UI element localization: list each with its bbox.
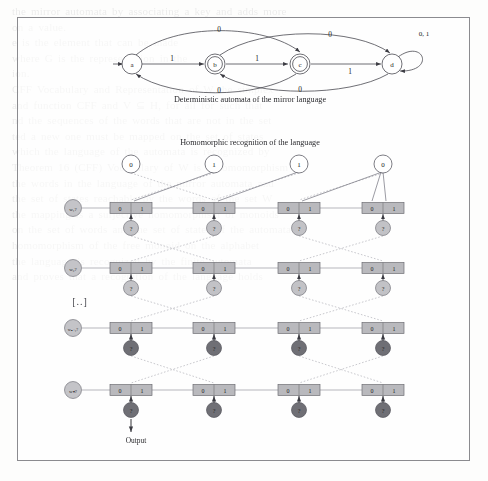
- svg-text:?: ?: [130, 286, 133, 292]
- row-label-0-text: w₁?: [69, 207, 77, 212]
- input-token-0-label: 0: [129, 161, 133, 169]
- lattice-cells: 01 ? 01 ? 01 ? 01 ? 01 ? 01 ? 01 ? 01 ? …: [110, 203, 404, 433]
- edge-label-a-c: 0: [217, 25, 221, 34]
- svg-text:0: 0: [119, 206, 122, 212]
- svg-text:?: ?: [213, 408, 216, 414]
- svg-text:1: 1: [141, 326, 144, 332]
- svg-text:0: 0: [287, 206, 290, 212]
- ellipsis-marker: [..]: [60, 296, 100, 307]
- state-c-label: c: [298, 61, 301, 69]
- svg-text:?: ?: [298, 226, 301, 232]
- svg-text:?: ?: [382, 408, 385, 414]
- state-b-label: b: [213, 61, 217, 69]
- figure-svg: a b c d 1 1 1 0 0 0 0 0, 1: [0, 0, 488, 481]
- cell-r3c2: 01: [278, 385, 320, 396]
- svg-text:1: 1: [309, 206, 312, 212]
- link-in2-c1-solid: [218, 172, 298, 201]
- svg-text:?: ?: [382, 286, 385, 292]
- svg-text:0: 0: [119, 266, 122, 272]
- edge-d-b-below: [220, 74, 388, 91]
- link-r0n1-r1c0: [131, 236, 214, 261]
- svg-text:0: 0: [371, 388, 374, 394]
- link-r1n0-r2c1: [131, 296, 214, 321]
- cell-r0c0: 01: [110, 203, 152, 214]
- svg-text:?: ?: [130, 226, 133, 232]
- link-r1n3-r2c2: [299, 296, 383, 321]
- edge-label-c-a: 0: [217, 86, 221, 95]
- svg-text:1: 1: [393, 388, 396, 394]
- cell-r1c1: 01: [193, 263, 235, 274]
- row-label-2-text: wₙ₋₁?: [68, 327, 78, 332]
- state-d-label: d: [390, 61, 394, 69]
- svg-text:1: 1: [309, 388, 312, 394]
- svg-text:?: ?: [382, 346, 385, 352]
- row-label-1-text: w₂?: [69, 267, 77, 272]
- svg-text:0: 0: [287, 388, 290, 394]
- cell-r1c0: 01: [110, 263, 152, 274]
- row-label-3-text: wₙ?: [69, 389, 78, 394]
- svg-text:0: 0: [287, 326, 290, 332]
- svg-text:1: 1: [309, 266, 312, 272]
- svg-text:?: ?: [298, 286, 301, 292]
- link-r0n2-r1c3: [299, 236, 383, 261]
- link-in2-c1: [214, 173, 299, 200]
- svg-text:?: ?: [298, 346, 301, 352]
- svg-text:?: ?: [130, 346, 133, 352]
- svg-text:1: 1: [309, 326, 312, 332]
- svg-text:?: ?: [213, 346, 216, 352]
- svg-text:?: ?: [213, 226, 216, 232]
- edge-label-a-b: 1: [170, 54, 174, 63]
- svg-text:0: 0: [202, 266, 205, 272]
- edge-label-d-self: 0, 1: [419, 30, 430, 38]
- svg-text:?: ?: [382, 226, 385, 232]
- svg-text:?: ?: [213, 286, 216, 292]
- caption-homomorphic: Homomorphic recognition of the language: [60, 138, 440, 147]
- svg-text:1: 1: [224, 326, 227, 332]
- cell-r3c0: 01: [110, 385, 152, 396]
- svg-text:0: 0: [287, 266, 290, 272]
- svg-text:1: 1: [141, 388, 144, 394]
- cell-r3c3: 01: [362, 385, 404, 396]
- svg-text:0: 0: [119, 388, 122, 394]
- edge-b-d-above: [220, 34, 390, 55]
- svg-text:0: 0: [202, 326, 205, 332]
- svg-text:1: 1: [141, 206, 144, 212]
- cell-r2c2: 01: [278, 323, 320, 334]
- svg-text:1: 1: [224, 206, 227, 212]
- svg-text:0: 0: [202, 388, 205, 394]
- input-token-row: 0 1 1 0: [122, 155, 392, 173]
- svg-text:0: 0: [371, 266, 374, 272]
- link-in3-c2-solid: [302, 172, 382, 201]
- automaton-diagram: [113, 31, 423, 93]
- link-r1n2-r2c3: [299, 296, 383, 321]
- svg-text:1: 1: [393, 266, 396, 272]
- svg-text:1: 1: [224, 266, 227, 272]
- link-r0n3-r1c2: [299, 236, 383, 261]
- input-token-1-label: 1: [212, 161, 216, 169]
- input-token-3-label: 0: [381, 161, 385, 169]
- caption-automata: Deterministic automata of the mirror lan…: [60, 95, 440, 104]
- edge-a-c-above: [136, 31, 300, 55]
- svg-text:0: 0: [371, 326, 374, 332]
- output-label: Output: [106, 436, 166, 445]
- input-token-2-label: 1: [297, 161, 301, 169]
- svg-text:0: 0: [202, 206, 205, 212]
- svg-text:0: 0: [371, 206, 374, 212]
- cell-r2c1: 01: [193, 323, 235, 334]
- cell-r1c3: 01: [362, 263, 404, 274]
- cell-r0c1: 01: [193, 203, 235, 214]
- link-in3-c3-solid: [383, 172, 386, 201]
- link-r0n0-r1c1: [131, 236, 214, 261]
- cell-r0c3: 01: [362, 203, 404, 214]
- cell-r2c0: 01: [110, 323, 152, 334]
- cell-r0c2: 01: [278, 203, 320, 214]
- cell-r2c3: 01: [362, 323, 404, 334]
- link-r2n0-r3c1: [131, 356, 214, 383]
- svg-text:0: 0: [119, 326, 122, 332]
- svg-text:1: 1: [224, 388, 227, 394]
- link-r1n1-r2c0: [131, 296, 214, 321]
- svg-text:1: 1: [393, 326, 396, 332]
- figure-container: a b c d 1 1 1 0 0 0 0 0, 1: [0, 0, 488, 481]
- svg-text:1: 1: [393, 206, 396, 212]
- svg-text:?: ?: [298, 408, 301, 414]
